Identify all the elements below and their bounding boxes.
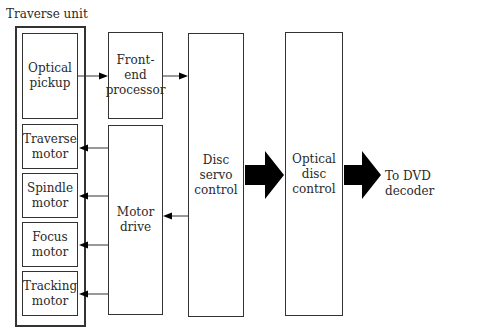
frontend-to-servo-arrowhead xyxy=(179,73,188,80)
drive-to-focus-arrowhead xyxy=(79,242,88,249)
drive-to-spindle-arrowhead xyxy=(79,193,88,200)
drive-to-tracking-arrowhead xyxy=(79,291,88,298)
drive-to-traverse-arrowhead xyxy=(79,145,88,152)
connectors xyxy=(0,0,478,333)
servo-to-motordrive-arrowhead xyxy=(163,213,172,220)
servo-to-optical-block-arrow xyxy=(245,151,284,199)
pickup-to-frontend-arrowhead xyxy=(99,73,108,80)
optical-to-decoder-block-arrow xyxy=(344,151,381,199)
